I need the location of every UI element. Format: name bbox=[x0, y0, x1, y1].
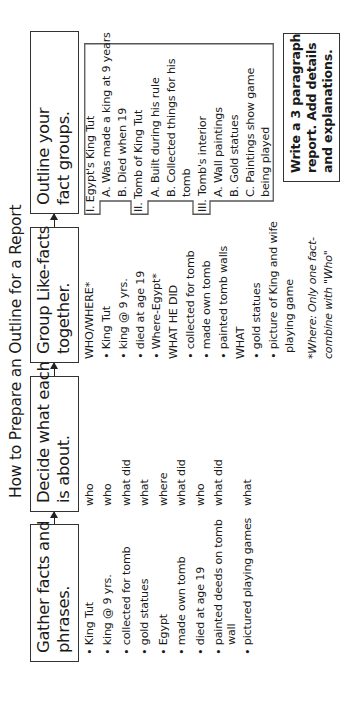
list-item: what bbox=[241, 479, 254, 506]
outline-item: tomb bbox=[180, 169, 193, 197]
outline-item: A. Wall paintings bbox=[212, 107, 225, 197]
list-item: • gold statues bbox=[250, 283, 263, 359]
list-item: • picture of King and wife bbox=[267, 221, 280, 359]
list-item: where bbox=[157, 473, 170, 506]
footnote-line: *Where: Only one fact- bbox=[306, 237, 319, 359]
page-title: How to Prepare an Outline for a Report bbox=[7, 223, 25, 498]
outline-item: B. Gold statues bbox=[228, 115, 241, 197]
outline-box: I. Egypt's King Tut A. Was made a king a… bbox=[84, 43, 274, 215]
final-step-line: report. Add details bbox=[304, 43, 319, 173]
list-item: • collected for tomb bbox=[184, 251, 197, 360]
list-item: • king @ 9 yrs. bbox=[101, 574, 114, 655]
step-outline-box: Outline your fact groups. bbox=[30, 31, 79, 214]
step-outline-label: Outline your fact groups. bbox=[34, 108, 74, 205]
list-item: • painted deeds on tomb bbox=[212, 519, 225, 655]
group-heading: WHAT HE DID bbox=[167, 285, 180, 359]
group-heading: WHO/WHERE* bbox=[83, 282, 96, 359]
list-item: wall bbox=[225, 624, 238, 645]
list-item: • gold statues bbox=[138, 579, 151, 655]
list-item: • Where-Egypt* bbox=[150, 273, 163, 359]
list-item: • died at age 19 bbox=[194, 567, 207, 655]
list-item: • King Tut bbox=[100, 306, 113, 359]
list-item: • made own tomb bbox=[175, 557, 188, 655]
final-step-line: Write a 3 paragraph bbox=[288, 34, 303, 173]
list-item: what bbox=[138, 479, 151, 506]
outline-item: A. Was made a king at 9 years bbox=[100, 32, 113, 197]
list-item: who bbox=[101, 484, 114, 507]
outline-item: being played bbox=[259, 127, 272, 197]
arrow-right-icon bbox=[54, 363, 56, 376]
list-item: what did bbox=[212, 459, 225, 506]
list-item: • pictured playing games bbox=[241, 518, 254, 655]
final-step-box: Write a 3 paragraph report. Add details … bbox=[283, 33, 340, 182]
list-item: what did bbox=[175, 459, 188, 506]
step-group-box: Group Like-facts together. bbox=[30, 227, 79, 363]
group-heading: WHAT bbox=[234, 327, 247, 359]
outline-diagram: How to Prepare an Outline for a Report G… bbox=[0, 0, 347, 701]
list-item: • king @ 9 yrs. bbox=[117, 278, 130, 359]
list-item: • collected for tomb bbox=[120, 547, 133, 656]
list-item: • died at age 19 bbox=[134, 271, 147, 359]
step-gather-label: Gather facts and phrases. bbox=[34, 521, 74, 653]
outline-item: II. Tomb of King Tut bbox=[132, 110, 145, 212]
list-item: • King Tut bbox=[83, 602, 96, 655]
outline-item: C. Paintings show game bbox=[244, 68, 257, 197]
list-item: who bbox=[83, 484, 96, 507]
list-item: • made own tomb bbox=[200, 261, 213, 359]
step-gather-box: Gather facts and phrases. bbox=[30, 524, 79, 662]
list-item: • Egypt bbox=[157, 614, 170, 655]
list-item: who bbox=[194, 484, 207, 507]
step-decide-box: Decide what each is about. bbox=[30, 376, 79, 512]
list-item: • painted tomb walls bbox=[217, 246, 230, 359]
outline-item: I. Egypt's King Tut bbox=[84, 116, 97, 212]
outline-item: A. Built during his rule bbox=[149, 77, 162, 197]
step-group-label: Group Like-facts together. bbox=[34, 226, 74, 354]
step-decide-label: Decide what each is about. bbox=[34, 361, 74, 503]
outline-item: B. Died when 19 bbox=[116, 108, 129, 197]
final-step-line: and explanations. bbox=[320, 49, 335, 173]
list-item: playing game bbox=[283, 279, 296, 353]
arrow-right-icon bbox=[54, 512, 56, 524]
outline-item: B. Collected things for his bbox=[165, 59, 178, 197]
outline-item: III. Tomb's interior bbox=[196, 116, 209, 212]
list-item: what did bbox=[120, 459, 133, 506]
footnote-line: combine with "Who" bbox=[322, 250, 335, 359]
arrow-right-icon bbox=[54, 214, 56, 227]
